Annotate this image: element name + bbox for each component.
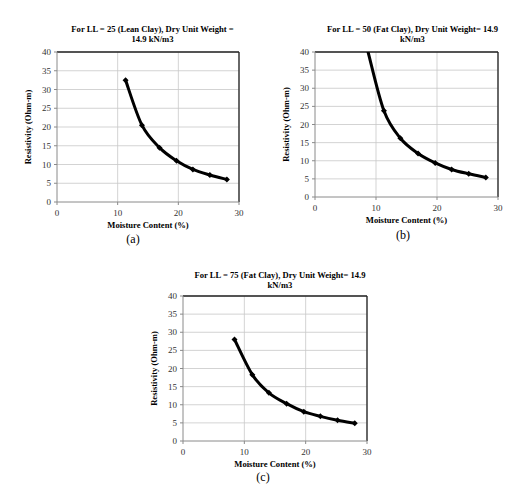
y-tick-label: 20 (42, 122, 52, 132)
y-tick-label: 0 (47, 197, 52, 207)
x-tick-label: 30 (363, 447, 373, 457)
y-axis-label: Resistivity (Ohm-m) (149, 331, 159, 406)
y-axis-label: Resistivity (Ohm-m) (23, 90, 33, 165)
y-tick-label: 10 (42, 160, 52, 170)
x-axis-label: Moisture Content (%) (234, 459, 316, 469)
x-tick-label: 0 (181, 447, 186, 457)
y-tick-label: 0 (173, 436, 178, 446)
y-tick-label: 30 (42, 85, 52, 95)
x-tick-label: 10 (113, 208, 123, 218)
x-tick-label: 0 (313, 203, 318, 213)
data-marker (335, 417, 341, 423)
x-tick-label: 10 (372, 203, 382, 213)
x-tick-label: 20 (301, 447, 311, 457)
chart-b: For LL = 50 (Fat Clay), Dry Unit Weight=… (260, 0, 523, 250)
data-marker (224, 177, 230, 183)
y-tick-label: 15 (300, 138, 310, 148)
data-marker (317, 413, 323, 419)
chart-c: For LL = 75 (Fat Clay), Dry Unit Weight=… (130, 250, 390, 495)
y-tick-label: 15 (42, 141, 52, 151)
y-tick-label: 10 (168, 400, 178, 410)
y-tick-label: 25 (300, 101, 310, 111)
y-tick-label: 35 (42, 66, 52, 76)
y-tick-label: 40 (300, 47, 310, 57)
y-tick-label: 35 (168, 309, 178, 319)
y-tick-label: 15 (168, 382, 178, 392)
x-tick-label: 10 (240, 447, 250, 457)
x-axis-label: Moisture Content (%) (107, 220, 189, 230)
y-tick-label: 10 (300, 156, 310, 166)
y-tick-label: 25 (168, 345, 178, 355)
y-tick-label: 30 (168, 327, 178, 337)
data-marker (466, 171, 472, 177)
x-tick-label: 0 (55, 208, 60, 218)
data-marker (352, 420, 358, 426)
x-tick-label: 20 (174, 208, 184, 218)
series-line (368, 52, 486, 177)
chart-a-caption: (a) (118, 232, 148, 247)
x-tick-label: 30 (235, 208, 245, 218)
y-tick-label: 5 (305, 174, 310, 184)
y-tick-label: 40 (168, 291, 178, 301)
y-tick-label: 5 (173, 418, 178, 428)
chart-a: For LL = 25 (Lean Clay), Dry Unit Weight… (0, 0, 260, 250)
x-tick-label: 30 (494, 203, 504, 213)
x-tick-label: 20 (433, 203, 443, 213)
series-line (235, 340, 355, 424)
chart-c-caption: (c) (248, 470, 278, 485)
y-tick-label: 25 (42, 103, 52, 113)
y-tick-label: 0 (305, 192, 310, 202)
y-tick-label: 5 (47, 178, 52, 188)
chart-c-plot: 05101520253035400102030Moisture Content … (130, 250, 390, 495)
y-tick-label: 30 (300, 83, 310, 93)
y-tick-label: 20 (300, 120, 310, 130)
data-marker (483, 174, 489, 180)
chart-b-plot: 05101520253035400102030Moisture Content … (260, 0, 523, 250)
y-tick-label: 40 (42, 47, 52, 57)
chart-a-plot: 05101520253035400102030Moisture Content … (0, 0, 260, 250)
y-axis-label: Resistivity (Ohm-m) (281, 87, 291, 162)
x-axis-label: Moisture Content (%) (366, 215, 448, 225)
y-tick-label: 35 (300, 65, 310, 75)
gridlines (57, 52, 239, 202)
chart-b-caption: (b) (388, 228, 418, 243)
y-tick-label: 20 (168, 364, 178, 374)
